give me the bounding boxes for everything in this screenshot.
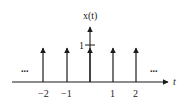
t-tick-label: 1 [110, 88, 115, 99]
impulses [43, 48, 136, 82]
x-axis-label: t [173, 76, 176, 87]
t-tick-label: −1 [61, 88, 72, 99]
y-tick-label: 1 [79, 40, 84, 51]
right-ellipsis: ... [150, 63, 158, 74]
left-ellipsis: ... [21, 63, 29, 74]
t-tick-label: 2 [133, 88, 138, 99]
impulse-train-diagram: x(t) 1 t ... ... −2 −1 1 2 [0, 0, 187, 105]
t-tick-label: −2 [38, 88, 49, 99]
diagram-canvas: x(t) 1 t ... ... −2 −1 1 2 [0, 0, 187, 105]
y-axis-label: x(t) [83, 10, 97, 22]
